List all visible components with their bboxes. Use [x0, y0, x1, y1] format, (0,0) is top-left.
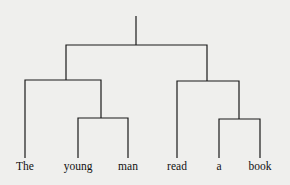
- leaf-book: book: [249, 160, 272, 172]
- tree-leaves: The young man read a book: [16, 160, 272, 173]
- young-man-bracket: [78, 118, 128, 158]
- tree-edges: [25, 16, 260, 158]
- root-bracket: [66, 45, 207, 81]
- leaf-read: read: [167, 160, 187, 172]
- left-np-bracket: [25, 80, 101, 158]
- a-book-bracket: [219, 119, 260, 158]
- leaf-young: young: [64, 160, 93, 173]
- leaf-the: The: [16, 160, 34, 172]
- leaf-man: man: [118, 160, 138, 172]
- leaf-a: a: [216, 160, 221, 172]
- syntax-tree: The young man read a book: [0, 0, 290, 185]
